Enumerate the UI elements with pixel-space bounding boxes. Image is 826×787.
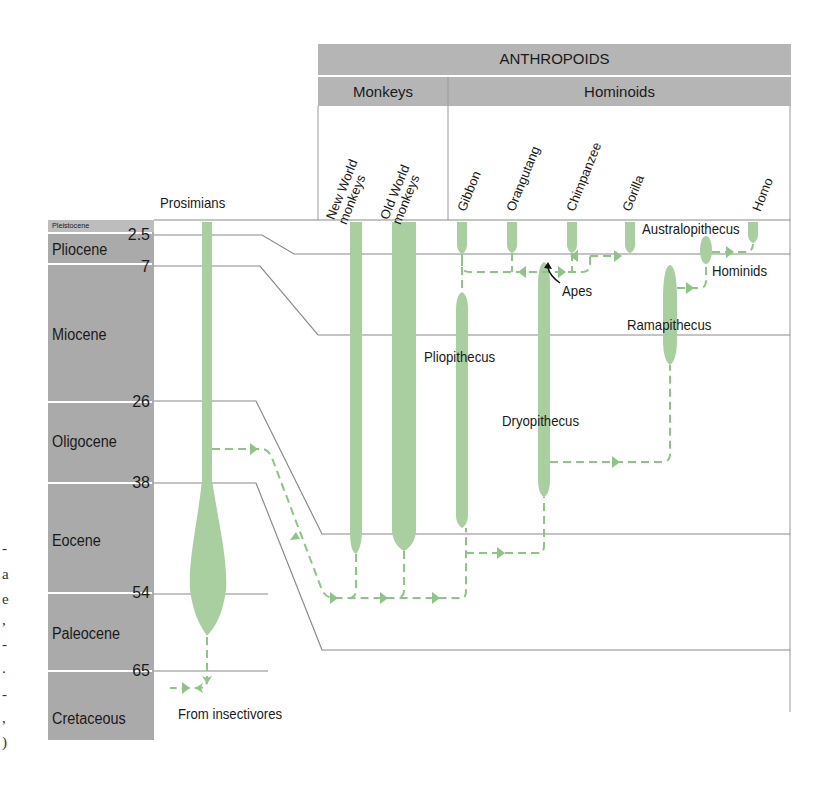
caption-fragment: - (2, 686, 7, 703)
anthropoids-header-band (318, 44, 791, 712)
label-australopithecus: Australopithecus (642, 220, 740, 237)
caption-fragment: , (2, 710, 6, 727)
epoch-oligocene: Oligocene (52, 433, 117, 451)
anthropoids-header: ANTHROPOIDS (318, 50, 791, 67)
label-from-insectivores: From insectivores (178, 705, 282, 722)
epoch-pleistocene: Pleistocene (52, 221, 89, 230)
label-pliopithecus: Pliopithecus (424, 348, 495, 365)
hominoids-header: Hominoids (448, 83, 791, 100)
caption-fragment: , (2, 612, 6, 629)
caption-fragment: ) (2, 734, 7, 751)
boundary-2-5: 2.5 (110, 226, 150, 244)
caption-fragment: a (2, 566, 9, 583)
caption-fragment: - (2, 636, 7, 653)
boundary-38: 38 (110, 474, 150, 492)
boundary-54: 54 (110, 584, 150, 602)
label-ramapithecus: Ramapithecus (627, 316, 711, 333)
caption-fragment: - (2, 540, 7, 557)
epoch-eocene: Eocene (52, 532, 101, 550)
epoch-pliocene: Pliocene (52, 241, 107, 259)
label-apes: Apes (562, 282, 592, 299)
label-dryopithecus: Dryopithecus (502, 412, 579, 429)
boundary-65: 65 (110, 662, 150, 680)
caption-fragment: . (2, 660, 6, 677)
prosimians-label: Prosimians (160, 194, 225, 211)
epoch-cretaceous: Cretaceous (52, 710, 126, 728)
boundary-26: 26 (110, 393, 150, 411)
epoch-paleocene: Paleocene (52, 625, 120, 643)
boundary-7: 7 (110, 258, 150, 276)
monkeys-header: Monkeys (318, 83, 448, 100)
caption-fragment: e (2, 591, 9, 608)
epoch-miocene: Miocene (52, 326, 106, 344)
label-hominids: Hominids (712, 262, 767, 279)
